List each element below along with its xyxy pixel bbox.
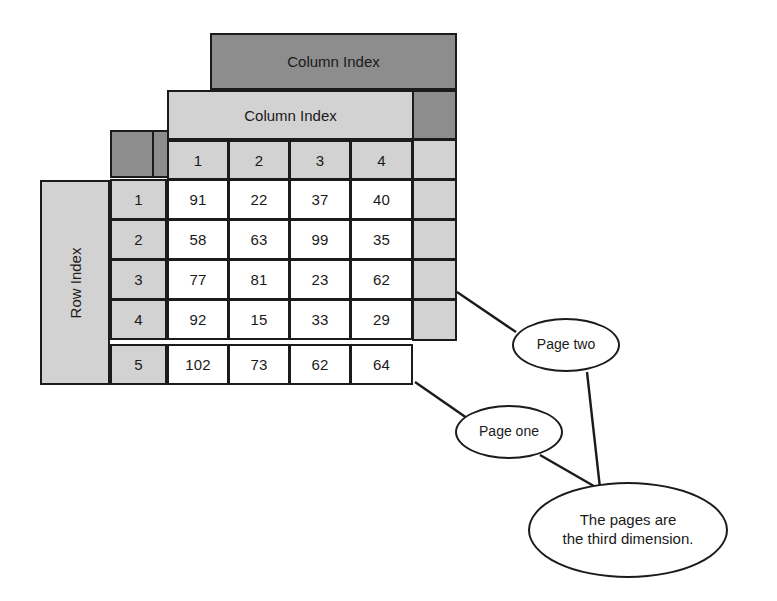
array-3d-diagram: Column Index Column Index Row Index 1 2 … [0,0,777,601]
data-cell-r3c3: 23 [289,259,351,300]
data-cell-r2c3: 99 [289,219,351,260]
column-header-cell-4: 4 [350,140,413,180]
data-cell-r1c4: 40 [350,179,413,220]
column-header-cell-2: 2 [228,140,290,180]
callout-third-dimension-text: The pages are the third dimension. [563,511,694,549]
leader-line-page-two [457,292,516,332]
data-cell-r3c4: 62 [350,259,413,300]
column-header-cell-3: 3 [289,140,351,180]
column-index-header-page-one: Column Index [167,90,414,140]
data-cell-r5c2: 73 [228,344,290,385]
leader-line-page-one-to-summary [540,455,599,489]
page-sliver-row-1 [412,179,457,220]
callout-page-two-label: Page two [537,336,595,354]
data-cell-r5c1: 102 [167,344,229,385]
page-sliver-row-4 [412,299,457,341]
data-cell-r3c1: 77 [167,259,229,300]
page-sliver-colhead [412,139,457,180]
data-cell-r4c1: 92 [167,299,229,340]
data-cell-r2c2: 63 [228,219,290,260]
row-index-label: Row Index [67,247,84,318]
data-cell-r5c4: 64 [350,344,413,385]
callout-third-dimension-line-1: The pages are [580,511,677,528]
page-sliver-row-2 [412,219,457,260]
row-header-cell-4: 4 [110,299,167,340]
data-cell-r1c1: 91 [167,179,229,220]
page-sliver-row-3 [412,259,457,300]
data-cell-r2c4: 35 [350,219,413,260]
data-cell-r1c3: 37 [289,179,351,220]
leader-line-page-two-to-summary [587,372,600,488]
row-header-cell-2: 2 [110,219,167,260]
data-cell-r1c2: 22 [228,179,290,220]
data-cell-r3c2: 81 [228,259,290,300]
row-header-cell-3: 3 [110,259,167,300]
callout-page-one-label: Page one [479,423,539,441]
callout-page-one: Page one [455,405,563,459]
row-header-cell-5: 5 [110,344,167,385]
data-cell-r4c4: 29 [350,299,413,340]
row-header-cell-1: 1 [110,179,167,220]
column-index-header-page-two: Column Index [210,33,457,90]
callout-page-two: Page two [512,318,620,372]
data-cell-r5c3: 62 [289,344,351,385]
column-index-header-page-one-label: Column Index [169,92,412,138]
column-header-cell-1: 1 [167,140,229,180]
callout-third-dimension: The pages are the third dimension. [528,482,728,578]
data-cell-r2c1: 58 [167,219,229,260]
data-cell-r4c2: 15 [228,299,290,340]
data-cell-r4c3: 33 [289,299,351,340]
callout-third-dimension-line-2: the third dimension. [563,530,694,547]
page-sliver-back-header [412,90,457,140]
column-index-header-page-two-label: Column Index [212,35,455,88]
row-index-panel: Row Index [40,180,110,385]
